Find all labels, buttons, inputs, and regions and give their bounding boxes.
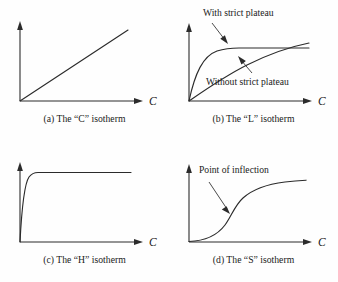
caption-panel-a: (a) The “C” isotherm	[0, 113, 169, 125]
panel-l-isotherm: With strict plateau Without strict plate…	[169, 0, 338, 141]
curve-s-isotherm	[189, 180, 306, 241]
x-axis-label-c: C	[149, 236, 157, 248]
annotation-without-strict-plateau: Without strict plateau	[206, 76, 289, 87]
x-axis-arrowhead-c	[134, 239, 143, 245]
x-axis-label-a: C	[149, 95, 157, 107]
panel-s-isotherm: Point of inflection C (d) The “S” isothe…	[169, 141, 338, 282]
x-axis-arrowhead-a	[134, 98, 143, 104]
curve-with-strict-plateau	[189, 48, 309, 101]
curve-h-isotherm	[20, 173, 131, 243]
y-axis-arrowhead-c	[17, 162, 23, 171]
x-axis-label-b: C	[318, 95, 326, 107]
leader-arrowhead-with-strict-plateau	[220, 35, 228, 44]
caption-panel-b: (b) The “L” isotherm	[169, 113, 338, 125]
y-axis-arrowhead-b	[186, 23, 192, 32]
annotation-point-of-inflection: Point of inflection	[199, 164, 269, 175]
curve-without-strict-plateau	[189, 43, 309, 101]
leader-arrowhead-point-of-inflection	[222, 206, 230, 214]
x-axis-arrowhead-b	[303, 98, 312, 104]
x-axis-label-d: C	[318, 236, 326, 248]
leader-arrowhead-without-strict-plateau	[238, 56, 246, 65]
panel-h-isotherm: C (c) The “H” isotherm	[0, 141, 169, 282]
panel-c-isotherm: C (a) The “C” isotherm	[0, 0, 169, 141]
caption-panel-c: (c) The “H” isotherm	[0, 254, 169, 266]
curve-c-isotherm	[20, 30, 128, 101]
y-axis-arrowhead-d	[186, 164, 192, 173]
annotation-with-strict-plateau: With strict plateau	[203, 7, 274, 18]
isotherm-figure: C (a) The “C” isotherm With strict plate…	[0, 0, 338, 282]
caption-panel-d: (d) The “S” isotherm	[169, 254, 338, 266]
y-axis-arrowhead-a	[17, 21, 23, 30]
leader-point-of-inflection	[209, 182, 227, 209]
x-axis-arrowhead-d	[303, 239, 312, 245]
